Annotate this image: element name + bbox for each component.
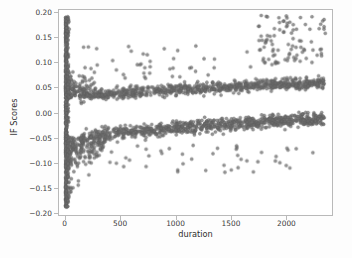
y-axis-label: IF Scores: [9, 72, 19, 162]
x-tick-label: 500: [100, 219, 140, 228]
y-tick-label: 0.05: [0, 83, 52, 92]
x-tick-label: 1000: [156, 219, 196, 228]
scatter-points-canvas: [59, 10, 332, 215]
y-tick-label: −0.10: [0, 158, 52, 167]
x-axis-label: duration: [58, 229, 333, 239]
y-tick-label: −0.05: [0, 133, 52, 142]
x-tick-label: 0: [45, 219, 85, 228]
x-tick-mark: [120, 216, 121, 220]
y-tick-label: 0.00: [0, 108, 52, 117]
x-tick-mark: [286, 216, 287, 220]
y-tick-label: 0.10: [0, 58, 52, 67]
y-tick-label: 0.20: [0, 7, 52, 16]
y-tick-label: −0.15: [0, 184, 52, 193]
x-tick-mark: [231, 216, 232, 220]
x-tick-mark: [176, 216, 177, 220]
x-tick-label: 1500: [211, 219, 251, 228]
x-tick-label: 2000: [266, 219, 306, 228]
scatter-plot-figure: 0.200.150.100.050.00−0.05−0.10−0.15−0.20…: [0, 0, 352, 258]
x-tick-mark: [65, 216, 66, 220]
plot-axes-area: [58, 9, 333, 216]
y-tick-label: 0.15: [0, 32, 52, 41]
y-tick-label: −0.20: [0, 209, 52, 218]
